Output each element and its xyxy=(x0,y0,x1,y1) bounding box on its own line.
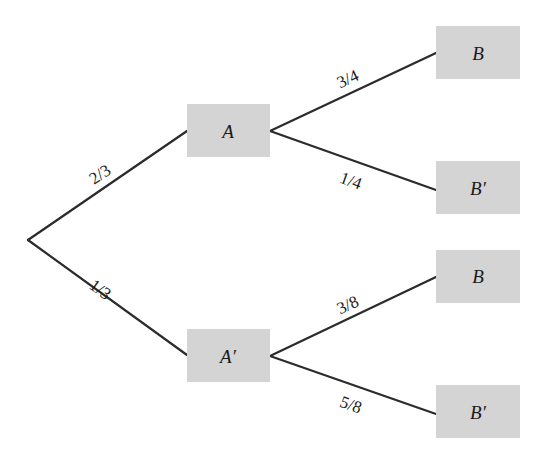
edge-label-a-prime-to-b-prime: 5/8 xyxy=(337,392,364,417)
node-b-given-a: B xyxy=(436,26,520,79)
node-a-label: A xyxy=(220,121,234,142)
node-a-prime: A′ xyxy=(187,329,270,382)
node-b-prime-given-a-label: B′ xyxy=(470,178,487,199)
edge-label-a-to-b: 3/4 xyxy=(334,66,362,93)
node-b-prime-given-a-prime-label: B′ xyxy=(470,402,487,423)
edge-label-a-to-b-prime: 1/4 xyxy=(337,168,364,193)
edge-root-to-a xyxy=(28,131,187,240)
node-b-prime-given-a-prime: B′ xyxy=(436,385,520,438)
node-b-given-a-prime: B xyxy=(436,250,520,303)
node-a-prime-label: A′ xyxy=(218,346,237,367)
probability-tree-diagram: 2/3 1/3 3/4 1/4 3/8 5/8 A A′ B B′ B B′ xyxy=(0,0,545,464)
node-b-given-a-prime-label: B xyxy=(472,266,484,287)
node-b-prime-given-a: B′ xyxy=(436,161,520,214)
node-b-given-a-label: B xyxy=(472,43,484,64)
node-a: A xyxy=(187,104,270,157)
edge-a-to-b xyxy=(270,53,436,131)
edge-a-prime-to-b xyxy=(270,277,436,356)
